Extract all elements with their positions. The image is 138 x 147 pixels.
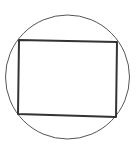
inscribed-rectangle-diagram: [0, 0, 138, 147]
circle: [6, 15, 130, 139]
inscribed-rectangle: [18, 40, 117, 117]
